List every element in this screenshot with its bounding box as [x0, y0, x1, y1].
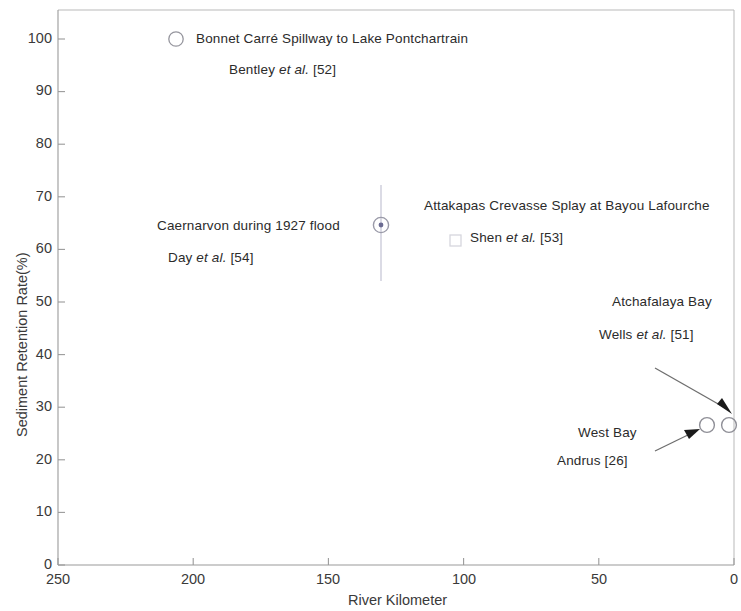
x-axis-title: River Kilometer [348, 592, 447, 608]
annotation-bonnet-carre-line2: Bentley et al. [52] [229, 62, 336, 77]
annotation-caernarvon-line1: Caernarvon during 1927 flood [157, 218, 340, 233]
x-tick-200: 200 [168, 571, 218, 587]
annotation-bonnet-ref: [52] [309, 62, 336, 77]
annotation-caernarvon-author: Day [168, 250, 196, 265]
y-axis-title: Sediment Retention Rate(%) [14, 252, 30, 437]
y-tick-100: 100 [10, 30, 52, 46]
marker-west-bay [700, 418, 715, 433]
y-tick-10: 10 [10, 503, 52, 519]
annotation-bonnet-etal: et al. [279, 62, 309, 77]
x-tick-250: 250 [33, 571, 83, 587]
annotation-caernarvon-etal: et al. [196, 250, 226, 265]
y-tick-80: 80 [10, 135, 52, 151]
annotation-caernarvon-ref: [54] [227, 250, 254, 265]
annotation-attakapas-etal: et al. [506, 230, 536, 245]
annotation-attakapas-line2: Shen et al. [53] [470, 230, 563, 245]
y-tick-70: 70 [10, 188, 52, 204]
annotation-arrows [655, 368, 732, 451]
plot-frame [58, 10, 734, 565]
annotation-atchafalaya-ref: [51] [667, 327, 694, 342]
annotation-attakapas-ref: [53] [536, 230, 563, 245]
y-tick-0: 0 [10, 556, 52, 572]
y-tick-20: 20 [10, 451, 52, 467]
annotation-atchafalaya-author: Wells [599, 327, 636, 342]
annotation-atchafalaya-line2: Wells et al. [51] [599, 327, 694, 342]
x-axis-ticks [58, 558, 734, 565]
annotation-caernarvon-line2: Day et al. [54] [168, 250, 254, 265]
annotation-atchafalaya-etal: et al. [636, 327, 666, 342]
annotation-attakapas-author: Shen [470, 230, 506, 245]
annotation-attakapas-line1: Attakapas Crevasse Splay at Bayou Lafour… [424, 198, 710, 213]
y-tick-90: 90 [10, 82, 52, 98]
annotation-west-bay-line1: West Bay [578, 425, 637, 440]
x-tick-150: 150 [303, 571, 353, 587]
annotation-bonnet-carre-line1: Bonnet Carré Spillway to Lake Pontchartr… [196, 31, 468, 46]
annotation-west-bay-line2: Andrus [26] [557, 453, 628, 468]
marker-bonnet-carre [169, 32, 183, 46]
annotation-bonnet-author: Bentley [229, 62, 279, 77]
figure-container: 100 90 80 70 60 50 40 30 20 10 0 250 200… [0, 0, 741, 611]
x-tick-50: 50 [574, 571, 624, 587]
x-tick-0: 0 [709, 571, 741, 587]
x-tick-100: 100 [439, 571, 489, 587]
marker-attakapas [450, 235, 461, 246]
y-axis-ticks [58, 39, 65, 565]
annotation-atchafalaya-line1: Atchafalaya Bay [612, 294, 712, 309]
